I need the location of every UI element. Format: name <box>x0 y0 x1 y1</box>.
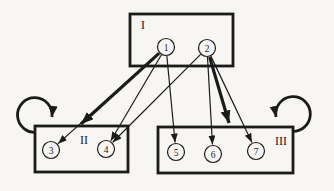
set-label-III: III <box>275 134 287 148</box>
set-label-II: II <box>80 133 88 147</box>
mapping-diagram-figure: IIIIII1234567 <box>0 0 334 191</box>
mapping-arrow-1-to-box-II <box>81 53 159 124</box>
set-box-I <box>130 14 233 66</box>
set-label-I: I <box>141 18 145 32</box>
element-label-3: 3 <box>49 146 54 156</box>
element-label-4: 4 <box>104 145 109 155</box>
element-label-2: 2 <box>205 44 210 54</box>
mapping-arrow-1-to-4 <box>111 55 162 141</box>
element-label-6: 6 <box>211 150 216 160</box>
diagram-canvas: IIIIII1234567 <box>0 0 334 191</box>
element-label-1: 1 <box>164 43 169 53</box>
element-label-5: 5 <box>174 148 179 158</box>
element-label-7: 7 <box>254 147 259 157</box>
